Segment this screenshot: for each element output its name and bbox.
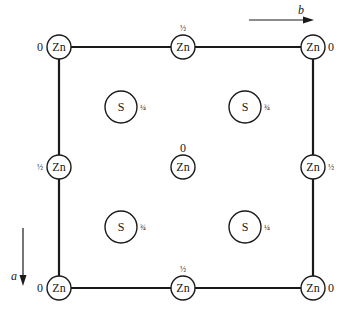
a-axis-label: a <box>11 269 17 283</box>
atom-symbol: Zn <box>306 281 319 295</box>
atom-height-label: ½ <box>180 265 186 274</box>
a-axis-arrow: a <box>11 228 27 286</box>
s-atom-upper-left: S ¼ <box>105 91 146 123</box>
zn-atom-bottom-middle: Zn ½ <box>171 265 195 300</box>
atom-symbol: Zn <box>52 40 65 54</box>
zn-atom-top-left: Zn 0 <box>37 35 71 59</box>
atom-height-label: 0 <box>328 281 334 295</box>
atom-height-label: ¾ <box>140 223 146 232</box>
atom-symbol: Zn <box>52 160 65 174</box>
atom-symbol: Zn <box>176 40 189 54</box>
atom-height-label: ¾ <box>264 103 270 112</box>
atom-height-label: ¼ <box>264 223 270 232</box>
atom-symbol: Zn <box>176 160 189 174</box>
atom-symbol: Zn <box>306 160 319 174</box>
atom-symbol: S <box>242 220 249 234</box>
zns-unit-cell-diagram: b a Zn 0 Zn ½ Zn 0 Zn ½ Zn 0 Zn ½ Z <box>0 0 342 309</box>
s-atom-lower-right: S ¼ <box>229 211 270 243</box>
atom-height-label: 0 <box>180 141 186 155</box>
s-atom-upper-right: S ¾ <box>229 91 270 123</box>
zn-atom-mid-left: Zn ½ <box>37 155 71 179</box>
atom-height-label: ½ <box>180 24 186 33</box>
atom-symbol: Zn <box>52 281 65 295</box>
atom-height-label: 0 <box>37 40 43 54</box>
atom-symbol: Zn <box>176 281 189 295</box>
atom-height-label: ½ <box>328 163 334 172</box>
atom-symbol: S <box>118 100 125 114</box>
zn-atom-bottom-right: Zn 0 <box>301 276 334 300</box>
zn-atom-top-right: Zn 0 <box>301 35 334 59</box>
atom-height-label: 0 <box>37 281 43 295</box>
b-axis-label: b <box>298 3 304 17</box>
b-arrowhead-icon <box>303 17 314 24</box>
atom-symbol: S <box>242 100 249 114</box>
atom-height-label: ½ <box>37 163 43 172</box>
atom-height-label: ¼ <box>140 103 146 112</box>
zn-atom-top-middle: Zn ½ <box>171 24 195 59</box>
a-arrowhead-icon <box>20 275 27 286</box>
b-axis-arrow: b <box>249 3 314 24</box>
atom-symbol: Zn <box>306 40 319 54</box>
zn-atom-center: Zn 0 <box>171 141 195 179</box>
atom-height-label: 0 <box>328 40 334 54</box>
zn-atom-mid-right: Zn ½ <box>301 155 334 179</box>
s-atom-lower-left: S ¾ <box>105 211 146 243</box>
atom-symbol: S <box>118 220 125 234</box>
zn-atom-bottom-left: Zn 0 <box>37 276 71 300</box>
